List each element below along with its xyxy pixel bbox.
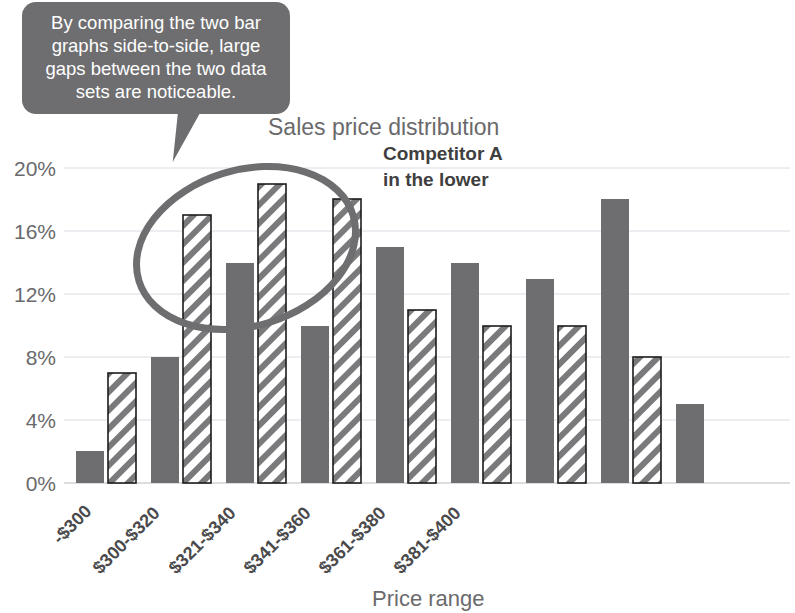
bar-solid-3: [226, 263, 254, 483]
bar-hatch-8: [633, 357, 661, 483]
bar-hatch-3: [258, 184, 286, 483]
y-tick-0: 0%: [26, 472, 56, 495]
bar-solid-8: [601, 199, 629, 483]
bar-hatch-6: [483, 326, 511, 483]
bar-solid-5: [376, 247, 404, 483]
chart-title: Sales price distribution: [268, 114, 499, 140]
y-tick-12: 12%: [14, 283, 56, 306]
bar-solid-2: [151, 357, 179, 483]
callout-bubble: By comparing the two bar graphs side-to-…: [22, 2, 290, 114]
x-tick-2: $300-$320: [89, 503, 164, 578]
x-tick-6: $381-$400: [390, 503, 465, 578]
bar-solid-6: [451, 263, 479, 483]
bars: [76, 184, 704, 483]
y-tick-16: 16%: [14, 220, 56, 243]
y-axis-tick-labels: 20% 16% 12% 8% 4% 0%: [14, 157, 56, 495]
bar-solid-4: [301, 326, 329, 483]
bar-hatch-2: [183, 215, 211, 483]
chart-page: 20% 16% 12% 8% 4% 0%: [0, 0, 795, 613]
chart-subtitle-line2: in the lower: [383, 169, 489, 190]
y-tick-8: 8%: [26, 346, 56, 369]
bar-hatch-1: [108, 373, 136, 483]
x-axis-tick-labels: -$300 $300-$320 $321-$340 $341-$360 $361…: [49, 501, 465, 578]
bar-solid-9: [676, 404, 704, 483]
bar-hatch-7: [558, 326, 586, 483]
x-tick-3: $321-$340: [165, 503, 240, 578]
y-tick-4: 4%: [26, 409, 56, 432]
bar-solid-7: [526, 279, 554, 483]
callout-text: By comparing the two bar graphs side-to-…: [34, 11, 278, 103]
bar-hatch-5: [408, 310, 436, 483]
bar-solid-1: [76, 451, 104, 483]
x-tick-1: -$300: [49, 501, 96, 548]
chart-subtitle-line1: Competitor A: [383, 143, 503, 164]
y-tick-20: 20%: [14, 157, 56, 180]
x-tick-4: $341-$360: [240, 503, 315, 578]
x-axis-title: Price range: [372, 586, 485, 611]
x-tick-5: $361-$380: [315, 503, 390, 578]
